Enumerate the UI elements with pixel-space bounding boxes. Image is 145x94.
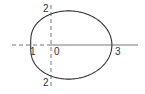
polar-plot — [0, 0, 145, 94]
label-y-two-bottom: 2 — [43, 78, 49, 88]
label-x-three: 3 — [115, 47, 121, 57]
label-y-two-top: 2 — [43, 4, 49, 14]
label-origin: 0 — [54, 47, 60, 57]
label-x-minus-one: 1 — [30, 47, 36, 57]
